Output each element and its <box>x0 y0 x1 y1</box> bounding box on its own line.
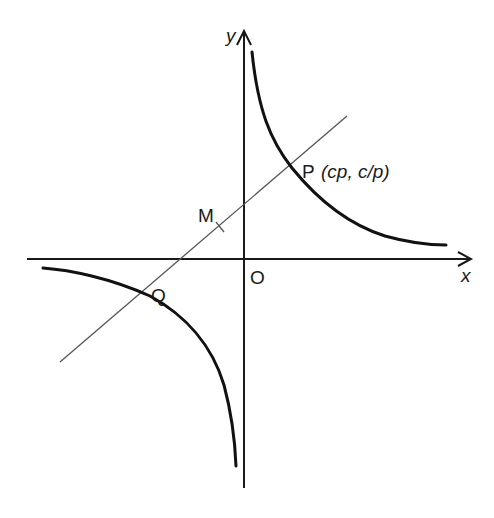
x-axis-label: x <box>460 265 472 286</box>
point-p-label: P (cp, c/p) <box>302 161 390 182</box>
hyperbola-branch-first-quadrant <box>252 52 446 245</box>
x-axis <box>27 252 471 266</box>
origin-label: O <box>250 267 265 288</box>
chord-line-pq <box>60 116 347 362</box>
point-p-name: P <box>302 161 315 182</box>
hyperbola-branch-third-quadrant <box>43 268 236 466</box>
y-axis-label: y <box>224 25 237 46</box>
point-q-label: Q <box>151 285 166 306</box>
point-p-coords: (cp, c/p) <box>321 161 390 182</box>
point-m-label: M <box>198 205 214 226</box>
hyperbola-diagram: y x O M Q P (cp, c/p) <box>0 0 494 518</box>
